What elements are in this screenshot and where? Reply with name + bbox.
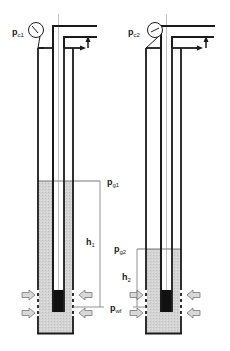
well-2: pc2 pg2 h2: [114, 14, 215, 334]
gauge-stem: [146, 37, 158, 48]
liquid-level-label-1: pg1: [107, 177, 120, 188]
well-1: pc1 pg1 h1 pwf: [12, 14, 122, 334]
inflow-arrow-left-lower-icon: [22, 308, 35, 318]
flow-arrow-right-icon: [197, 46, 203, 51]
inflow-arrow-right-upper-icon: [79, 290, 92, 300]
bottomhole-pressure-label: pwf: [110, 303, 122, 314]
inflow-arrow-right-lower-icon: [79, 308, 92, 318]
packer: [54, 290, 64, 312]
inflow-arrow-right-lower-icon: [187, 308, 200, 318]
annulus-liquid-left: [39, 181, 53, 333]
inflow-arrow-left-upper-icon: [22, 290, 35, 300]
gauge-label-1: pc1: [12, 27, 25, 38]
tubing-outlet-outer: [161, 26, 215, 312]
bottom-liquid: [147, 312, 181, 333]
flow-arrow-right-icon: [80, 46, 86, 51]
tubing-outlet-outer: [53, 26, 97, 312]
annulus-liquid-right: [64, 181, 73, 333]
gauge-label-2: pc2: [128, 27, 141, 38]
gauge-stem: [38, 36, 40, 48]
height-label-2: h2: [122, 272, 132, 283]
inflow-arrow-left-lower-icon: [130, 308, 143, 318]
well-diagram: pc1 pg1 h1 pwf: [0, 0, 230, 351]
inflow-arrow-right-upper-icon: [187, 290, 200, 300]
bottom-liquid: [39, 312, 73, 333]
height-label-1: h1: [86, 237, 96, 248]
inflow-arrow-left-upper-icon: [130, 290, 143, 300]
liquid-level-label-2: pg2: [114, 244, 127, 255]
tubing-outlet-inner: [172, 37, 214, 48]
packer: [162, 290, 172, 312]
